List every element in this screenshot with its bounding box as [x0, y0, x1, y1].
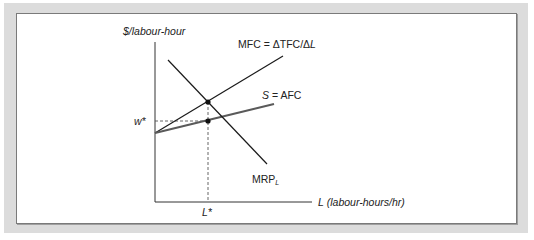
- equilibrium-wage-point: [205, 118, 210, 123]
- x-axis-label: L (labour-hours/hr): [318, 196, 405, 208]
- w-star-label: w*: [134, 115, 147, 127]
- supply-label: S = AFC: [262, 89, 302, 101]
- y-axis-label: $/labour-hour: [122, 25, 186, 37]
- mrp-label: MRPL: [252, 173, 279, 186]
- l-star-label: L*: [202, 206, 213, 218]
- mrp-curve: [168, 60, 267, 164]
- mfc-label: MFC = ΔTFC/ΔL: [238, 38, 316, 50]
- monopsony-diagram: $/labour-hour MFC = ΔTFC/ΔL S = AFC MRPL…: [0, 0, 534, 240]
- mfc-mrp-intersection-point: [205, 99, 210, 104]
